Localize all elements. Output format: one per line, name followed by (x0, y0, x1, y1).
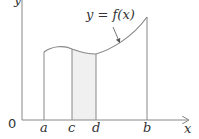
curve-label: y = f(x) (85, 7, 135, 22)
y-axis-label: y (13, 0, 22, 7)
tick-b: b (143, 120, 151, 135)
tick-d: d (92, 120, 100, 135)
x-axis-label: x (184, 121, 192, 136)
tick-a: a (40, 120, 48, 135)
origin-label: 0 (8, 116, 16, 131)
label-pointer-arrow (113, 27, 119, 41)
curve-f (44, 17, 147, 54)
tick-c: c (68, 120, 76, 135)
shaded-region (72, 49, 96, 120)
area-diagram: y = f(x) 0 a c d b x y (0, 0, 199, 139)
